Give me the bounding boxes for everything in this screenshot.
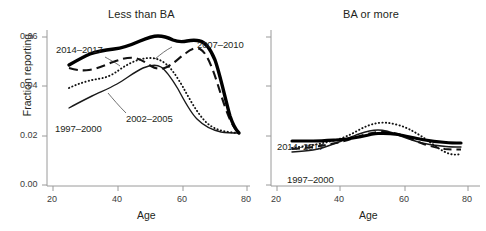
leader-2007-2010-left: [155, 47, 172, 59]
y-tick-label-0.04-left: 0.04: [20, 80, 38, 90]
x-tick-label-60-left: 60: [177, 194, 187, 204]
leader-2014-2017-left: [105, 57, 120, 66]
y-tick-label-0.02-left: 0.02: [20, 130, 38, 140]
x-tick-label-60-right: 60: [399, 194, 409, 204]
annotation-2007-2010-left: 2007–2010: [197, 39, 244, 50]
annotation-2014-2017-left: 2014–2017: [56, 44, 103, 55]
y-axis-title-wrap-left: Fraction reporting: [17, 32, 31, 118]
y-tick-label-0.00-left: 0.00: [20, 179, 38, 189]
panel-ba-or-more: BA or more 20 40 60 8: [258, 0, 486, 231]
figure-root: Less than BA: [0, 0, 486, 231]
x-tick-label-20-right: 20: [271, 194, 281, 204]
annotation-2002-2005-left: 2002–2005: [126, 113, 173, 124]
annotation-2014-2017-right: 2014–2017: [277, 141, 324, 152]
x-axis-title-right: Age: [359, 209, 378, 221]
annotation-1997-2000-right: 1997–2000: [287, 174, 334, 185]
x-tick-label-40-right: 40: [334, 194, 344, 204]
leader-2002-2005-left: [108, 93, 126, 113]
x-tick-label-80-left: 80: [241, 194, 251, 204]
plot-area-right: [258, 0, 486, 231]
annotation-1997-2000-left: 1997–2000: [55, 123, 102, 134]
x-tick-label-20-left: 20: [47, 194, 57, 204]
x-axis-title-left: Age: [137, 209, 156, 221]
y-tick-label-0.06-left: 0.06: [20, 31, 38, 41]
x-tick-label-80-right: 80: [462, 194, 472, 204]
y-axis-title-left: Fraction reporting: [21, 34, 33, 116]
x-tick-label-40-left: 40: [112, 194, 122, 204]
panel-less-than-ba: Less than BA: [0, 0, 258, 231]
